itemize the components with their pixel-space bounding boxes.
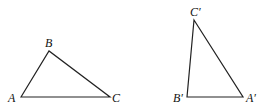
vertex-label-a: A [7,91,16,105]
vertex-label-c: C [112,91,121,105]
triangle-diagram: A B C A′ B′ C′ [0,0,269,109]
triangle-a-prime-b-prime-c-prime [187,20,243,97]
vertex-label-b: B [45,36,53,50]
vertex-label-b-prime: B′ [173,91,183,105]
triangle-abc [21,51,110,97]
vertex-label-a-prime: A′ [245,91,256,105]
vertex-label-c-prime: C′ [190,5,201,19]
